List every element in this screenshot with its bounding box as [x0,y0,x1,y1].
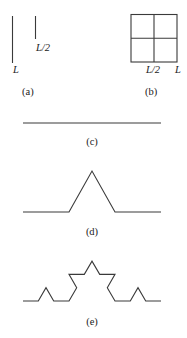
koch-figure: L L/2 (a) L/2 L (b) (c) (d) (e) [0,0,187,338]
label-half-L: L/2 [35,42,51,53]
label-L: L [174,64,181,75]
panel-b: L/2 L (b) [131,15,181,99]
caption-d: (d) [86,226,99,238]
panel-e: (e) [23,261,161,328]
panel-a: L L/2 (a) [12,16,51,98]
label-L: L [12,64,19,75]
caption-e: (e) [86,316,98,328]
panel-c: (c) [23,123,161,148]
label-half-L: L/2 [145,64,161,75]
koch-iteration-2 [23,261,161,301]
koch-iteration-1 [23,171,161,212]
caption-a: (a) [22,86,34,98]
caption-c: (c) [86,136,98,148]
panel-d: (d) [23,171,161,238]
caption-b: (b) [145,86,158,98]
